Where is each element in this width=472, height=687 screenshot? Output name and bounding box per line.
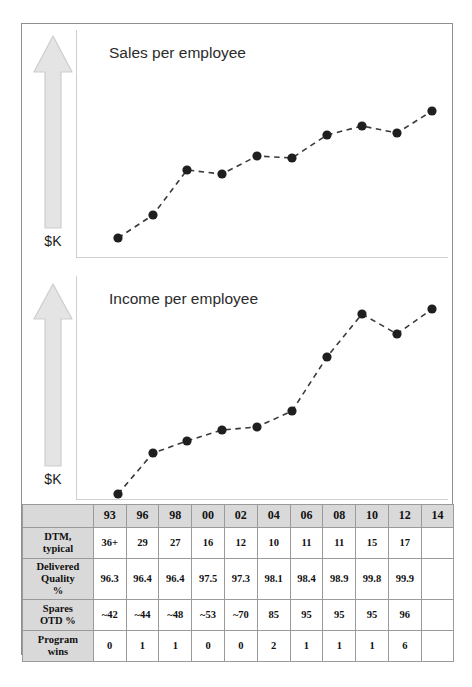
cell-pw-04: 2 [257,631,290,662]
line-series-income [77,276,449,500]
cell-dtm-93: 36+ [93,528,126,559]
cell-sp-93: ~42 [93,600,126,631]
plot-area-income: Income per employee [76,276,448,500]
cell-dq-98: 96.4 [159,559,192,600]
cell-dtm-10: 15 [356,528,389,559]
plot-area-sales: Sales per employee [76,30,448,258]
chart-sales-per-employee: $K Sales per employee [22,24,454,268]
cell-dtm-14 [421,528,453,559]
table-col-header-98: 98 [159,505,192,528]
table-col-header-06: 06 [290,505,323,528]
cell-sp-08: 95 [323,600,356,631]
cell-dq-96: 96.4 [126,559,159,600]
cell-dq-00: 97.5 [192,559,225,600]
cell-sp-04: 85 [257,600,290,631]
row-label-line-1: Spares [25,603,91,615]
cell-sp-06: 95 [290,600,323,631]
cell-pw-08: 1 [323,631,356,662]
table-col-header-14: 14 [421,505,453,528]
table-row-dtm-typical: DTM, typical 36+ 29 27 16 12 10 11 11 15… [23,528,454,559]
up-arrow-icon-income [30,280,76,470]
table-col-header-02: 02 [224,505,257,528]
cell-dq-93: 96.3 [93,559,126,600]
row-label-line-1: Program [25,634,91,646]
cell-pw-00: 0 [192,631,225,662]
row-label-delivered-quality: Delivered Quality % [23,559,94,600]
table-col-header-10: 10 [356,505,389,528]
table-row-program-wins: Program wins 0 1 1 0 0 2 1 1 1 6 [23,631,454,662]
row-label-line-1: DTM, [25,531,91,543]
cell-sp-14 [421,600,453,631]
cell-dtm-06: 11 [290,528,323,559]
row-label-line-2: OTD % [25,615,91,627]
table-col-header-08: 08 [323,505,356,528]
cell-dtm-02: 12 [224,528,257,559]
table-col-header-00: 00 [192,505,225,528]
cell-pw-12: 6 [388,631,421,662]
cell-pw-06: 1 [290,631,323,662]
cell-dq-10: 99.8 [356,559,389,600]
cell-pw-98: 1 [159,631,192,662]
cell-dq-02: 97.3 [224,559,257,600]
row-label-line-2: Quality [25,573,91,585]
table-col-header-04: 04 [257,505,290,528]
cell-dtm-00: 16 [192,528,225,559]
row-label-dtm-typical: DTM, typical [23,528,94,559]
screenshot-root: $K Sales per employee [0,0,472,687]
row-label-line-2: typical [25,543,91,555]
table-col-header-96: 96 [126,505,159,528]
row-label-line-3: % [25,585,91,597]
cell-dtm-98: 27 [159,528,192,559]
cell-sp-02: ~70 [224,600,257,631]
cell-pw-14 [421,631,453,662]
cell-sp-96: ~44 [126,600,159,631]
metrics-table: 93 96 98 00 02 04 06 08 10 12 14 DTM, [22,504,454,662]
up-arrow-icon-sales [30,32,76,232]
cell-dq-08: 98.9 [323,559,356,600]
table-col-header-93: 93 [93,505,126,528]
content-frame: $K Sales per employee [21,23,453,655]
table-row-spares-otd: Spares OTD % ~42 ~44 ~48 ~53 ~70 85 95 9… [23,600,454,631]
cell-pw-96: 1 [126,631,159,662]
cell-dq-14 [421,559,453,600]
cell-sp-00: ~53 [192,600,225,631]
row-label-spares-otd: Spares OTD % [23,600,94,631]
cell-dq-12: 99.9 [388,559,421,600]
cell-sp-12: 96 [388,600,421,631]
axis-unit-label-sales: $K [30,233,76,249]
row-label-program-wins: Program wins [23,631,94,662]
line-series-sales [77,30,449,258]
cell-pw-02: 0 [224,631,257,662]
axis-unit-label-income: $K [30,471,76,487]
table-header-row: 93 96 98 00 02 04 06 08 10 12 14 [23,505,454,528]
row-label-line-1: Delivered [25,561,91,573]
cell-pw-10: 1 [356,631,389,662]
cell-dtm-04: 10 [257,528,290,559]
cell-dq-04: 98.1 [257,559,290,600]
cell-dtm-08: 11 [323,528,356,559]
table-col-header-12: 12 [388,505,421,528]
table-corner-cell [23,505,94,528]
cell-sp-98: ~48 [159,600,192,631]
chart-income-per-employee: $K Income per employee [22,272,454,504]
row-label-line-2: wins [25,646,91,658]
table-row-delivered-quality: Delivered Quality % 96.3 96.4 96.4 97.5 … [23,559,454,600]
cell-dq-06: 98.4 [290,559,323,600]
cell-dtm-12: 17 [388,528,421,559]
cell-sp-10: 95 [356,600,389,631]
cell-pw-93: 0 [93,631,126,662]
cell-dtm-96: 29 [126,528,159,559]
